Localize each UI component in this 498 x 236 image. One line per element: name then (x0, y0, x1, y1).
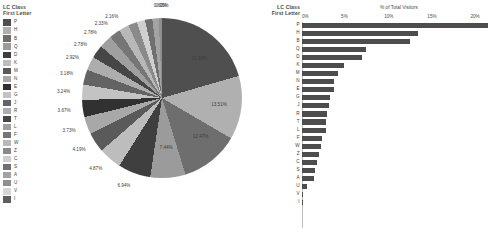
legend-item-j[interactable]: J (3, 99, 37, 107)
bar-row-v[interactable]: V (302, 191, 496, 199)
pie-chart[interactable] (82, 18, 242, 178)
legend-item-q[interactable]: Q (3, 43, 37, 51)
bar-row-s[interactable]: S (302, 167, 496, 175)
legend-item-m[interactable]: M (3, 67, 37, 75)
bar-rect[interactable] (302, 23, 488, 28)
legend-item-k[interactable]: K (3, 59, 37, 67)
x-tick-2: 10% (384, 13, 393, 20)
bar-rect[interactable] (302, 119, 326, 124)
legend-item-n[interactable]: N (3, 75, 37, 83)
bar-category-label: M (296, 70, 300, 76)
legend-item-b[interactable]: B (3, 35, 37, 43)
legend-item-t[interactable]: T (3, 115, 37, 123)
bar-row-k[interactable]: K (302, 62, 496, 70)
bar-rect[interactable] (302, 176, 314, 181)
legend-item-h[interactable]: H (3, 26, 37, 34)
pie-slice-label-d: 6.94% (117, 183, 130, 188)
legend-swatch-icon (3, 52, 11, 58)
legend-item-label: T (14, 116, 17, 122)
bar-rect[interactable] (302, 71, 338, 76)
legend-item-label: I (14, 196, 15, 202)
legend-item-label: N (14, 76, 17, 82)
legend-item-i[interactable]: I (3, 195, 37, 203)
bar-row-j[interactable]: J (302, 102, 496, 110)
legend-swatch-icon (3, 164, 11, 170)
bar-row-p[interactable]: P (302, 22, 496, 30)
bar-row-a[interactable]: A (302, 175, 496, 183)
bar-row-d[interactable]: D (302, 54, 496, 62)
legend-item-g[interactable]: G (3, 91, 37, 99)
bar-row-c[interactable]: C (302, 159, 496, 167)
bar-rect[interactable] (302, 31, 418, 36)
pie-slice-label-n: 3.73% (63, 128, 76, 133)
legend-item-w[interactable]: W (3, 139, 37, 147)
legend-item-label: K (14, 60, 17, 66)
bar-row-z[interactable]: Z (302, 151, 496, 159)
legend-item-e[interactable]: E (3, 83, 37, 91)
bar-rect[interactable] (302, 63, 344, 68)
bar-category-label: T (297, 119, 300, 125)
legend-swatch-icon (3, 19, 11, 25)
legend-item-c[interactable]: C (3, 155, 37, 163)
pie-slice-label-f: 2.33% (95, 21, 108, 26)
legend-item-v[interactable]: V (3, 187, 37, 195)
bar-plot-area: PHBQDKMNEGJRTLFWZCSAUVI (302, 22, 496, 228)
legend-item-s[interactable]: S (3, 163, 37, 171)
bar-row-g[interactable]: G (302, 94, 496, 102)
bar-row-l[interactable]: L (302, 127, 496, 135)
bar-rect[interactable] (302, 184, 307, 189)
legend-swatch-icon (3, 172, 11, 178)
legend-item-f[interactable]: F (3, 131, 37, 139)
bar-rect[interactable] (302, 128, 326, 133)
legend-item-label: U (14, 180, 17, 186)
legend-item-a[interactable]: A (3, 171, 37, 179)
pie-slice-label-t: 2.78% (74, 42, 87, 47)
bar-category-label: S (296, 167, 299, 173)
bar-rect[interactable] (302, 160, 317, 165)
bar-rect[interactable] (302, 39, 410, 44)
bar-row-h[interactable]: H (302, 30, 496, 38)
legend-item-label: V (14, 188, 17, 194)
bar-rect[interactable] (302, 152, 319, 157)
bar-row-e[interactable]: E (302, 86, 496, 94)
bar-rect[interactable] (302, 168, 315, 173)
bar-axis-ticks: 0%5%10%15%20% (302, 13, 496, 21)
legend-item-u[interactable]: U (3, 179, 37, 187)
legend-item-l[interactable]: L (3, 123, 37, 131)
bar-row-t[interactable]: T (302, 119, 496, 127)
bar-rect[interactable] (302, 87, 334, 92)
bar-row-w[interactable]: W (302, 143, 496, 151)
legend-swatch-icon (3, 188, 11, 194)
bar-category-label: R (296, 111, 299, 117)
bar-row-n[interactable]: N (302, 78, 496, 86)
bar-row-i[interactable]: I (302, 199, 496, 207)
bar-row-r[interactable]: R (302, 111, 496, 119)
bar-row-q[interactable]: Q (302, 46, 496, 54)
bar-rect[interactable] (302, 200, 303, 205)
legend-item-label: H (14, 27, 17, 33)
legend-item-label: G (14, 92, 18, 98)
bar-row-b[interactable]: B (302, 38, 496, 46)
legend-item-z[interactable]: Z (3, 147, 37, 155)
bar-rect[interactable] (302, 103, 329, 108)
legend-item-d[interactable]: D (3, 51, 37, 59)
bar-row-u[interactable]: U (302, 183, 496, 191)
bar-category-label: F (297, 135, 300, 141)
bar-row-f[interactable]: F (302, 135, 496, 143)
bar-category-label: B (296, 38, 299, 44)
bar-row-m[interactable]: M (302, 70, 496, 78)
legend-item-p[interactable]: P (3, 18, 37, 26)
bar-category-label: Z (297, 151, 300, 157)
legend-item-list: PHBQDKMNEGJRTLFWZCSAUVI (3, 18, 37, 203)
legend-item-label: R (14, 108, 17, 114)
bar-rect[interactable] (302, 111, 327, 116)
bar-rect[interactable] (302, 55, 362, 60)
bar-rect[interactable] (302, 192, 303, 197)
bar-rect[interactable] (302, 79, 334, 84)
pie-slice-label-e: 3.67% (58, 108, 71, 113)
bar-rect[interactable] (302, 47, 366, 52)
bar-rect[interactable] (302, 144, 321, 149)
bar-rect[interactable] (302, 95, 330, 100)
bar-rect[interactable] (302, 136, 322, 141)
legend-item-r[interactable]: R (3, 107, 37, 115)
